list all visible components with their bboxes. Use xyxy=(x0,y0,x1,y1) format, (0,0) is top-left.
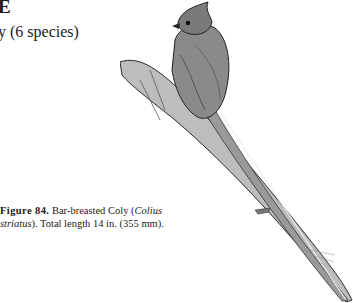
family-subheading-fragment: y (6 species) xyxy=(0,23,79,41)
caption-text-common-name: Bar-breasted Coly ( xyxy=(52,205,135,216)
section-heading-fragment: E xyxy=(0,0,11,18)
caption-text-length: ). Total length 14 in. (355 mm). xyxy=(32,218,164,229)
figure-label: Figure 84. xyxy=(0,205,49,216)
caption-genus: Colius xyxy=(135,205,162,216)
figure-caption: Figure 84. Bar-breasted Coly (Colius str… xyxy=(0,205,230,230)
caption-species: striatus xyxy=(0,218,32,229)
bar-breasted-coly-illustration xyxy=(120,0,353,303)
